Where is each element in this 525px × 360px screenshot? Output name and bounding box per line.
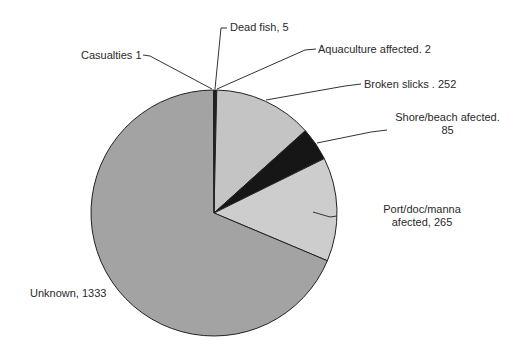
pie-chart [0, 0, 525, 360]
leader-dead-fish [215, 28, 227, 89]
leader-shore [317, 130, 387, 143]
label-shore-line1: Shore/beach afected. [390, 111, 505, 124]
label-unknown: Unknown, 1333 [30, 287, 106, 300]
pie-slices [91, 90, 337, 336]
label-shore-beach: Shore/beach afected. 85 [390, 111, 505, 137]
leader-broken-slicks [266, 84, 361, 100]
label-casualties: Casualties 1 [81, 49, 142, 62]
label-broken-slicks: Broken slicks . 252 [364, 78, 456, 91]
label-port: Port/doc/manna afected, 265 [377, 203, 467, 229]
label-port-line2: afected, 265 [377, 216, 467, 229]
leader-aquaculture [217, 49, 316, 89]
label-aquaculture: Aquaculture affected. 2 [318, 43, 431, 56]
label-dead-fish: Dead fish, 5 [230, 21, 289, 34]
leader-casualties [143, 55, 212, 89]
label-port-line1: Port/doc/manna [377, 203, 467, 216]
label-shore-line2: 85 [390, 124, 505, 137]
